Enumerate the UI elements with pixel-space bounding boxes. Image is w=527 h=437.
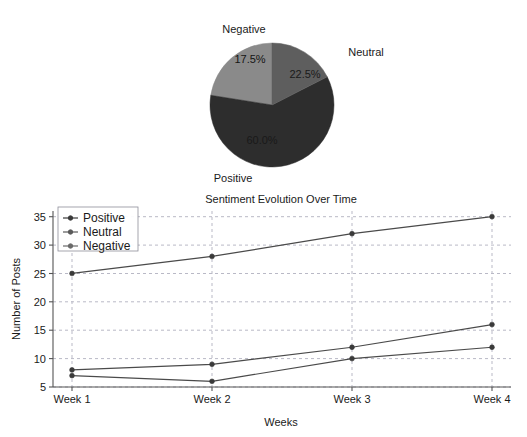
pie-label-positive: Positive <box>214 172 253 184</box>
x-tick-label: Week 3 <box>333 393 370 405</box>
data-point-positive <box>210 254 215 259</box>
pie-label-neutral: Neutral <box>348 46 383 58</box>
x-tick-label: Week 4 <box>473 393 510 405</box>
data-point-negative <box>490 345 495 350</box>
legend-label-neutral: Neutral <box>83 225 122 239</box>
legend-marker-negative <box>68 244 72 248</box>
data-point-positive <box>70 271 75 276</box>
y-tick-label: 5 <box>40 381 46 393</box>
pie-percent-negative: 17.5% <box>234 53 265 65</box>
pie-percent-neutral: 22.5% <box>289 68 320 80</box>
combined-charts-svg: 22.5% 60.0% 17.5% Negative Neutral Posit… <box>0 0 527 437</box>
data-point-negative <box>210 379 215 384</box>
y-tick-label: 15 <box>34 324 46 336</box>
y-tick-label: 20 <box>34 296 46 308</box>
pie-label-negative: Negative <box>222 23 265 35</box>
y-tick-label: 25 <box>34 268 46 280</box>
line-chart-legend[interactable]: PositiveNeutralNegative <box>58 207 138 253</box>
y-tick-label: 30 <box>34 239 46 251</box>
line-chart-title: Sentiment Evolution Over Time <box>205 193 357 205</box>
data-point-positive <box>490 214 495 219</box>
y-axis-title: Number of Posts <box>10 258 22 340</box>
legend-marker-positive <box>68 216 72 220</box>
figure-canvas: 22.5% 60.0% 17.5% Negative Neutral Posit… <box>0 0 527 437</box>
y-tick-label: 35 <box>34 211 46 223</box>
y-tick-label: 10 <box>34 353 46 365</box>
data-point-negative <box>70 373 75 378</box>
legend-label-positive: Positive <box>83 211 125 225</box>
data-point-negative <box>350 356 355 361</box>
x-tick-label: Week 1 <box>53 393 90 405</box>
data-point-neutral <box>490 322 495 327</box>
pie-slices-group <box>210 43 334 167</box>
data-point-neutral <box>350 345 355 350</box>
x-axis-title: Weeks <box>264 416 298 428</box>
legend-label-negative: Negative <box>83 239 131 253</box>
x-tick-label: Week 2 <box>193 393 230 405</box>
data-point-neutral <box>70 368 75 373</box>
legend-marker-neutral <box>68 230 72 234</box>
data-point-neutral <box>210 362 215 367</box>
data-point-positive <box>350 231 355 236</box>
pie-percent-positive: 60.0% <box>246 134 277 146</box>
